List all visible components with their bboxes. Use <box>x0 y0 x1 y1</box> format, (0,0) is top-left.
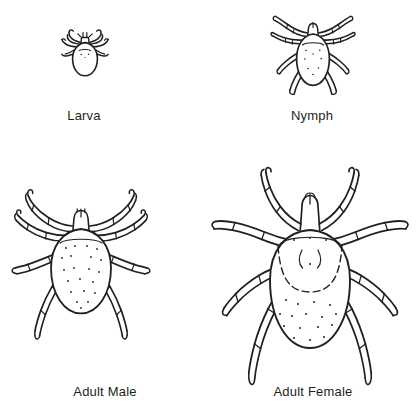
tick-nymph-illustration <box>261 12 365 104</box>
stage-label-adult-male: Adult Male <box>0 384 210 399</box>
tick-life-stages-figure: Larva <box>0 0 420 414</box>
tick-adult-male-illustration <box>8 182 154 382</box>
stage-label-larva: Larva <box>0 108 168 123</box>
stage-nymph: Nymph <box>228 0 396 140</box>
stage-adult-female: Adult Female <box>206 160 420 414</box>
stage-label-nymph: Nymph <box>228 108 396 123</box>
tick-larva-illustration <box>50 24 120 94</box>
stage-larva: Larva <box>0 0 168 140</box>
stage-adult-male: Adult Male <box>0 160 210 414</box>
stage-label-adult-female: Adult Female <box>206 384 420 399</box>
tick-adult-female-illustration <box>210 164 410 396</box>
